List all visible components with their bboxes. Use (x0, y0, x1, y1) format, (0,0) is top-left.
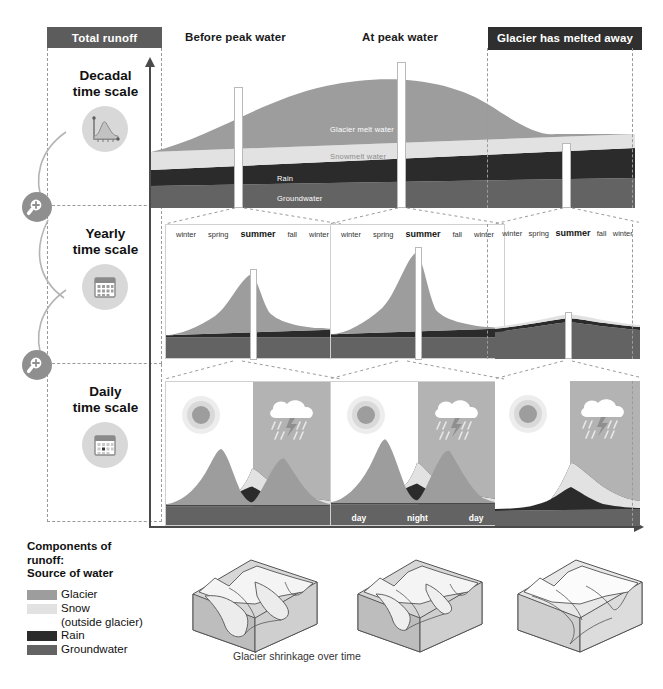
glacier-runoff-figure: Before peak water At peak water Glacier … (0, 0, 663, 689)
night-label: night (407, 513, 428, 523)
legend-item-snow: Snow (27, 602, 167, 615)
x-axis-time (149, 526, 635, 528)
daily-chart-melted (495, 381, 640, 526)
guide-line-melted-left (487, 48, 488, 208)
magnifier-plus-icon-yearly-to-daily[interactable] (22, 350, 52, 380)
calendar-day-icon (82, 422, 128, 468)
day-label-2: day (469, 513, 484, 523)
day-label-1: day (351, 513, 366, 523)
terrain-block-before (185, 552, 325, 657)
legend-label-rain: Rain (61, 629, 85, 642)
legend-item-rain: Rain (27, 629, 167, 642)
legend-label-groundwater: Groundwater (61, 643, 127, 656)
terrain-block-at (350, 552, 490, 657)
calendar-month-icon (82, 264, 128, 310)
line-chart-icon (82, 106, 128, 152)
legend-title-line3: Source of water (27, 567, 113, 579)
band-label-snowmelt-water: Snowmelt water (330, 152, 386, 161)
guide-line-yearly-melted-left (487, 224, 488, 359)
column-header-glacier-melted-away: Glacier has melted away (488, 27, 642, 50)
figure-caption: Glacier shrinkage over time (233, 650, 361, 662)
yearly-panel-melted: winter spring summer fall winter (495, 224, 640, 359)
legend-swatch-groundwater (27, 645, 57, 655)
legend-item-glacier: Glacier (27, 588, 167, 601)
sidebar-yearly-line2: time scale (73, 242, 138, 257)
slice-marker-before (234, 87, 243, 208)
column-header-before-peak-water: Before peak water (185, 31, 286, 43)
yearly-panel-at: winter spring summer fall winter (330, 224, 505, 359)
magnifier-plus-icon-decadal-to-yearly[interactable] (22, 192, 52, 222)
legend-swatch-glacier (27, 590, 57, 600)
legend-sublabel-snow: (outside glacier) (61, 616, 167, 629)
legend-swatch-rain (27, 631, 57, 641)
legend-title-line1: Components of (27, 540, 111, 552)
slice-marker-yearly-before (250, 269, 257, 360)
daily-panel-before (165, 381, 340, 526)
sidebar-row-daily: Daily time scale (47, 364, 162, 522)
band-label-glacier-melt-water: Glacier melt water (330, 125, 394, 134)
slice-marker-yearly-melted (565, 312, 572, 359)
sidebar-decadal-line2: time scale (73, 84, 138, 99)
legend-label-snow: Snow (61, 602, 90, 615)
guide-line-melted-right (632, 48, 633, 208)
column-header-at-peak-water: At peak water (362, 31, 438, 43)
daily-chart-before (166, 382, 339, 525)
connector-yearly-to-daily (149, 359, 639, 381)
total-runoff-banner: Total runoff (47, 27, 162, 48)
legend: Components of runoff: Source of water Gl… (27, 540, 167, 657)
sidebar-daily-line1: Daily (89, 384, 121, 399)
guide-line-yearly-melted-right (632, 224, 633, 359)
legend-swatch-snow (27, 604, 57, 614)
slice-marker-at (397, 62, 406, 208)
sidebar-row-decadal: Decadal time scale (47, 48, 162, 206)
terrain-block-melted (510, 552, 650, 657)
sidebar-row-yearly: Yearly time scale (47, 206, 162, 364)
sidebar-yearly-line1: Yearly (86, 226, 126, 241)
legend-item-groundwater: Groundwater (27, 643, 167, 656)
sidebar-daily-line2: time scale (73, 400, 138, 415)
daily-panel-melted (495, 381, 640, 526)
slice-marker-yearly-at (415, 247, 422, 360)
yearly-panel-before: winter spring summer fall winter (165, 224, 340, 359)
slice-marker-melted (562, 143, 571, 208)
legend-title-line2: runoff: (27, 554, 64, 566)
band-label-groundwater: Groundwater (277, 194, 323, 203)
legend-label-glacier: Glacier (61, 588, 97, 601)
sidebar-decadal-line1: Decadal (80, 68, 132, 83)
day-night-labels: day night day (331, 513, 504, 523)
daily-panel-at: day night day (330, 381, 505, 526)
daily-chart-at (331, 382, 504, 525)
connector-decadal-to-yearly (149, 206, 639, 226)
band-label-rain: Rain (277, 174, 293, 183)
guide-line-daily-melted-right (632, 381, 633, 526)
